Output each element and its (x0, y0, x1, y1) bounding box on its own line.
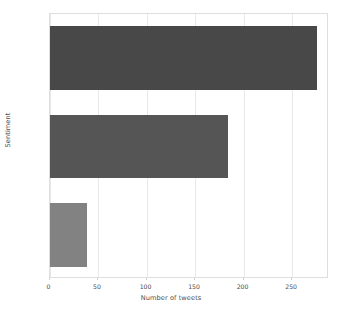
plot-area (49, 13, 329, 278)
x-axis-tick-label: 150 (188, 283, 200, 290)
x-axis-tick-mark (97, 278, 98, 280)
x-axis-tick-label: 100 (140, 283, 152, 290)
x-axis-tick-mark (291, 278, 292, 280)
bar-positive (50, 115, 229, 179)
x-axis-tick-label: 250 (285, 283, 297, 290)
x-axis-tick-label: 200 (237, 283, 249, 290)
x-axis-title: Number of tweets (0, 294, 342, 302)
y-axis-title: Sentiment (4, 113, 12, 148)
x-axis-tick-label: 50 (93, 283, 101, 290)
bar-negative (50, 203, 88, 267)
x-axis-tick-label: 0 (47, 283, 51, 290)
x-axis-tick-mark (49, 278, 50, 280)
bar-neutral (50, 26, 318, 90)
x-axis-tick-mark (243, 278, 244, 280)
x-axis-tick-mark (194, 278, 195, 280)
bar-chart-figure: Sentiment Number of tweets 0501001502002… (0, 0, 342, 314)
x-axis-tick-mark (146, 278, 147, 280)
